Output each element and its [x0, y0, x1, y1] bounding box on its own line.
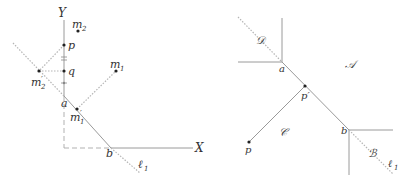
diagram-canvas: Y X p q a b m 2 m 1 m 2 ′ m 1 ′ ℓ 1: [0, 0, 408, 184]
label-a: a: [61, 97, 68, 110]
label-m2-prime: m 2 ′: [31, 74, 46, 91]
label-l1: ℓ 1: [138, 158, 148, 173]
x-axis-label: X: [194, 141, 204, 155]
y-axis-label: Y: [58, 6, 67, 20]
label-m1: m 1: [110, 58, 124, 73]
svg-text:ℓ: ℓ: [138, 158, 143, 171]
point-p: [62, 43, 65, 46]
label-m1-prime: m 1 ′: [70, 108, 84, 126]
svg-text:2: 2: [81, 25, 87, 33]
svg-text:m: m: [31, 76, 41, 89]
svg-text:m: m: [110, 58, 120, 71]
label-m2: m 2: [72, 18, 87, 33]
left-figure: Y X p q a b m 2 m 1 m 2 ′ m 1 ′ ℓ 1: [13, 6, 204, 173]
label-a: a: [279, 63, 285, 74]
reflection-m1prime-m1: [77, 71, 116, 109]
svg-text:1: 1: [394, 164, 398, 172]
label-l1: ℓ 1: [388, 158, 398, 172]
point-q: [62, 69, 65, 72]
label-b: b: [106, 147, 113, 160]
point-m2-prime: [37, 69, 40, 72]
svg-text:′: ′: [41, 74, 43, 83]
svg-text:m: m: [72, 18, 82, 31]
point-p-prime: [303, 84, 306, 87]
label-b: b: [341, 125, 347, 136]
label-q: q: [68, 65, 75, 78]
label-p: p: [245, 144, 252, 155]
region-label-c: 𝒞: [279, 126, 290, 139]
svg-text:ℓ: ℓ: [388, 158, 392, 169]
region-label-a: 𝒜: [345, 58, 359, 71]
svg-text:1: 1: [144, 165, 148, 173]
svg-text:1: 1: [80, 118, 84, 126]
svg-text:1: 1: [120, 65, 124, 73]
right-figure: a b p′ p 𝒟 𝒜 𝒞 ℬ ℓ 1: [238, 17, 398, 175]
line-l1-lower: [111, 148, 140, 173]
region-label-b: ℬ: [368, 147, 378, 160]
segment-p-pprime: [249, 86, 305, 142]
svg-text:2: 2: [40, 83, 46, 91]
segment-ab: [282, 62, 349, 130]
label-p-prime: p′: [301, 90, 310, 101]
label-p: p: [68, 39, 75, 52]
svg-text:′: ′: [80, 108, 82, 117]
svg-text:m: m: [70, 111, 80, 124]
reflection-p-m2prime: [39, 45, 64, 71]
